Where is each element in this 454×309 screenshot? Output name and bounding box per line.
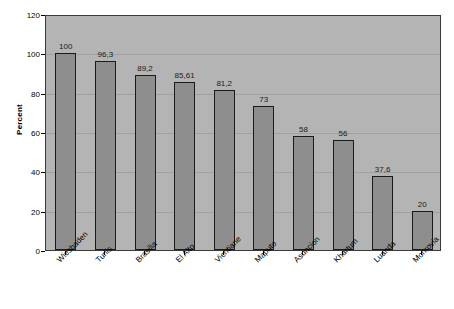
x-axis-tick-label: Maputo — [253, 239, 278, 264]
x-axis-tick-label: Wiesbaden — [55, 230, 90, 265]
x-axis-tick-label: Khartum — [332, 237, 360, 265]
x-axis-tick-label: Luanda — [372, 239, 397, 264]
x-axis-tick-label: Tunis — [94, 244, 114, 264]
x-axis-tick-label: El Alto — [174, 242, 196, 264]
x-axis-tick-label: Asuncion — [292, 235, 322, 265]
x-axis-labels: WiesbadenTunisBrasiliaEl AltoVientianeMa… — [0, 0, 454, 309]
x-axis-tick-label: Vientiane — [213, 235, 243, 265]
x-axis-tick-label: Brasilia — [134, 239, 159, 264]
bar-chart: Percent 020406080100120 10096,389,285,61… — [0, 0, 454, 309]
x-axis-tick-label: Monrovia — [411, 235, 441, 265]
